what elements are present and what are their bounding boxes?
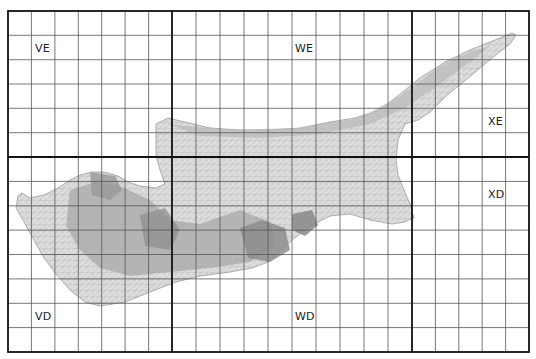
sheet-label-vd[interactable]: VD [35,310,51,323]
sheet-label-xd[interactable]: XD [488,188,504,201]
sheet-label-xe[interactable]: XE [488,115,503,128]
sheet-label-ve[interactable]: VE [35,42,50,55]
island-landmass [16,33,516,306]
cyprus-map [0,0,536,359]
sheet-label-we[interactable]: WE [295,42,313,55]
sheet-label-wd[interactable]: WD [295,310,315,323]
